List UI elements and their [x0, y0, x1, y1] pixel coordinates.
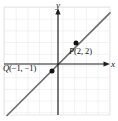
coordinate-plane-figure: y x P(2, 2) Q(−1, −1): [0, 0, 118, 121]
grid-lines: [4, 7, 110, 115]
point-marker-P: [74, 41, 79, 46]
graph-canvas: [0, 0, 118, 121]
point-label-P: P(2, 2): [69, 47, 92, 56]
point-label-Q: Q(−1, −1): [3, 64, 36, 73]
point-marker-Q: [50, 69, 55, 74]
x-axis-label: x: [111, 60, 115, 69]
point-label-Q-coords: (−1, −1): [9, 63, 36, 73]
point-label-P-coords: (2, 2): [74, 46, 92, 56]
y-axis-label: y: [56, 1, 60, 10]
